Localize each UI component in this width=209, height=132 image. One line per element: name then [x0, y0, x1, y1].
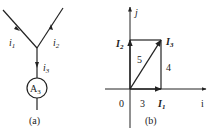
- label-I2: I2: [115, 38, 124, 51]
- label-I3: I3: [165, 36, 174, 49]
- arrow-i3-icon: [35, 62, 39, 68]
- label-i1: i1: [9, 37, 15, 50]
- label-i-axis: i: [201, 98, 204, 109]
- caption-a: (a): [29, 115, 40, 127]
- magnitude-4: 4: [166, 62, 171, 73]
- panel-a-circuit: i1 i2 i3 A3 (a): [3, 8, 63, 127]
- label-I1: I1: [157, 98, 165, 111]
- magnitude-3: 3: [140, 98, 145, 109]
- origin-label: 0: [119, 98, 124, 109]
- magnitude-5: 5: [137, 54, 142, 65]
- figure: i1 i2 i3 A3 (a) j i I2 I3 I1 5 4 3 0 (b): [0, 0, 209, 132]
- label-i2: i2: [53, 37, 60, 50]
- label-a3: A3: [30, 83, 41, 96]
- label-i3: i3: [43, 62, 50, 75]
- label-j-axis: j: [133, 7, 138, 18]
- phasor-i3: [130, 40, 161, 89]
- caption-b: (b): [145, 115, 157, 127]
- panel-b-phasor: j i I2 I3 I1 5 4 3 0 (b): [105, 7, 206, 128]
